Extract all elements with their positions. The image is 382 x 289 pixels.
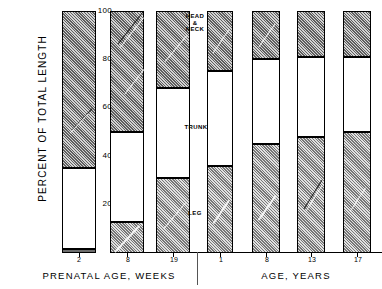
bar-segment-leg	[207, 166, 233, 253]
y-axis-title: PERCENT OF TOTAL LENGTH	[37, 4, 48, 234]
bar-segment-trunk	[297, 57, 325, 137]
x-tick-label-prenatal-8: 8	[113, 256, 143, 263]
bar-segment-trunk	[343, 57, 371, 132]
x-tick-label-prenatal-2: 2	[64, 256, 94, 263]
bar-prenatal-19-weeks	[156, 11, 190, 253]
bar-segment-head-neck	[62, 11, 96, 168]
bar-segment-head-neck	[297, 11, 325, 57]
bar-segment-leg	[252, 144, 280, 253]
legend-label-trunk: TRUNK	[182, 124, 210, 131]
panel-title-age: AGE, YEARS	[216, 270, 376, 281]
legend-label-leg: LEG	[182, 210, 208, 217]
legend-head-line3: NECK	[186, 26, 205, 32]
bar-segment-leg	[297, 137, 325, 253]
bar-segment-trunk	[252, 59, 280, 144]
bar-segment-head-neck	[343, 11, 371, 57]
bar-prenatal-8-weeks	[110, 11, 144, 253]
bar-segment-trunk	[62, 168, 96, 249]
x-tick-label-age-1: 1	[206, 256, 236, 263]
legend-label-head-neck: HEAD & NECK	[182, 13, 208, 33]
bar-segment-head-neck	[252, 11, 280, 59]
bar-segment-leg	[343, 132, 371, 253]
bar-segment-head-neck	[110, 11, 144, 132]
x-tick-label-age-13: 13	[297, 256, 327, 263]
bar-age-1-year	[207, 11, 233, 253]
bar-age-17-years	[343, 11, 371, 253]
bar-segment-trunk	[156, 88, 190, 178]
stacked-bar-chart: PERCENT OF TOTAL LENGTH 100 80 60 40 20	[0, 0, 382, 289]
legend-head-line2: &	[193, 20, 198, 26]
legend-head-line1: HEAD	[186, 13, 205, 19]
bar-segment-trunk	[207, 71, 233, 166]
bar-age-13-years	[297, 11, 325, 253]
panel-divider	[197, 252, 198, 285]
bar-age-8-years	[252, 11, 280, 253]
bar-segment-leg	[110, 222, 144, 253]
bar-segment-head-neck	[207, 11, 233, 71]
bar-prenatal-2-weeks	[62, 11, 96, 253]
x-tick-label-age-8: 8	[252, 256, 282, 263]
x-tick-label-prenatal-19: 19	[159, 256, 189, 263]
x-tick-label-age-17: 17	[343, 256, 373, 263]
panel-title-prenatal: PRENATAL AGE, WEEKS	[24, 270, 194, 281]
bar-segment-trunk	[110, 132, 144, 222]
